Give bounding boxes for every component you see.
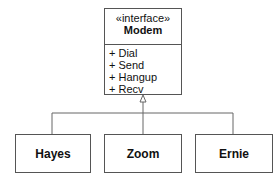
stereotype-label: «interface» [105,12,181,24]
class-ernie-box: Ernie [195,134,273,173]
realization-arrowhead-icon [140,95,146,102]
operation-recv: + Recv [109,83,157,95]
class-hayes-box: Hayes [15,134,91,173]
interface-name: Modem [105,24,181,36]
class-name-hayes: Hayes [35,147,70,161]
interface-modem-box: «interface» Modem + Dial + Send + Hangup… [104,8,182,95]
class-zoom-box: Zoom [104,134,182,173]
operation-send: + Send [109,59,157,71]
class-name-ernie: Ernie [219,147,249,161]
operations-list: + Dial + Send + Hangup + Recv [109,47,157,95]
operation-dial: + Dial [109,47,157,59]
class-name-zoom: Zoom [127,147,160,161]
interface-header: «interface» Modem [105,9,181,45]
operation-hangup: + Hangup [109,71,157,83]
